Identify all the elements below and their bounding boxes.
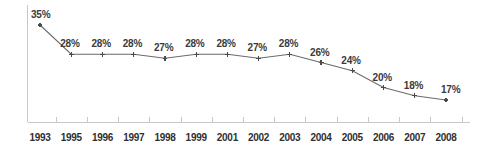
data-point-label: 17%	[441, 85, 460, 95]
data-point-label: 28%	[279, 39, 298, 49]
data-point-label: 27%	[248, 43, 267, 53]
x-axis-ticks	[57, 117, 463, 122]
data-point-label: 28%	[123, 39, 142, 49]
x-axis-label-2002: 2002	[248, 132, 269, 143]
data-point-label: 24%	[341, 56, 360, 66]
x-axis-label-1998: 1998	[154, 132, 175, 143]
series-line	[40, 25, 446, 100]
x-axis-label-2008: 2008	[435, 132, 456, 143]
x-axis-label-1996: 1996	[92, 132, 113, 143]
x-axis-label-2004: 2004	[311, 132, 332, 143]
line-chart: 35%28%28%28%27%28%28%27%28%26%24%20%18%1…	[0, 0, 479, 151]
series-markers	[38, 23, 449, 103]
data-point-label: 35%	[31, 10, 50, 20]
data-series	[38, 23, 449, 103]
axes	[28, 5, 471, 123]
x-axis-label-1997: 1997	[123, 132, 144, 143]
data-point-label: 28%	[216, 39, 235, 49]
x-axis-label-2001: 2001	[217, 132, 238, 143]
x-axis-label-2003: 2003	[279, 132, 300, 143]
x-axis-label-2006: 2006	[373, 132, 394, 143]
data-point-label: 20%	[373, 73, 392, 83]
data-point-label: 28%	[185, 39, 204, 49]
data-point-label: 18%	[404, 81, 423, 91]
x-axis-label-1993: 1993	[29, 132, 50, 143]
x-axis-label-2005: 2005	[342, 132, 363, 143]
data-point-label: 27%	[154, 43, 173, 53]
x-axis-label-1995: 1995	[61, 132, 82, 143]
data-point-label: 28%	[60, 39, 79, 49]
data-point-label: 28%	[91, 39, 110, 49]
x-axis-label-1999: 1999	[186, 132, 207, 143]
x-axis-label-2007: 2007	[404, 132, 425, 143]
chart-plot-area	[0, 0, 479, 151]
data-point-label: 26%	[310, 48, 329, 58]
